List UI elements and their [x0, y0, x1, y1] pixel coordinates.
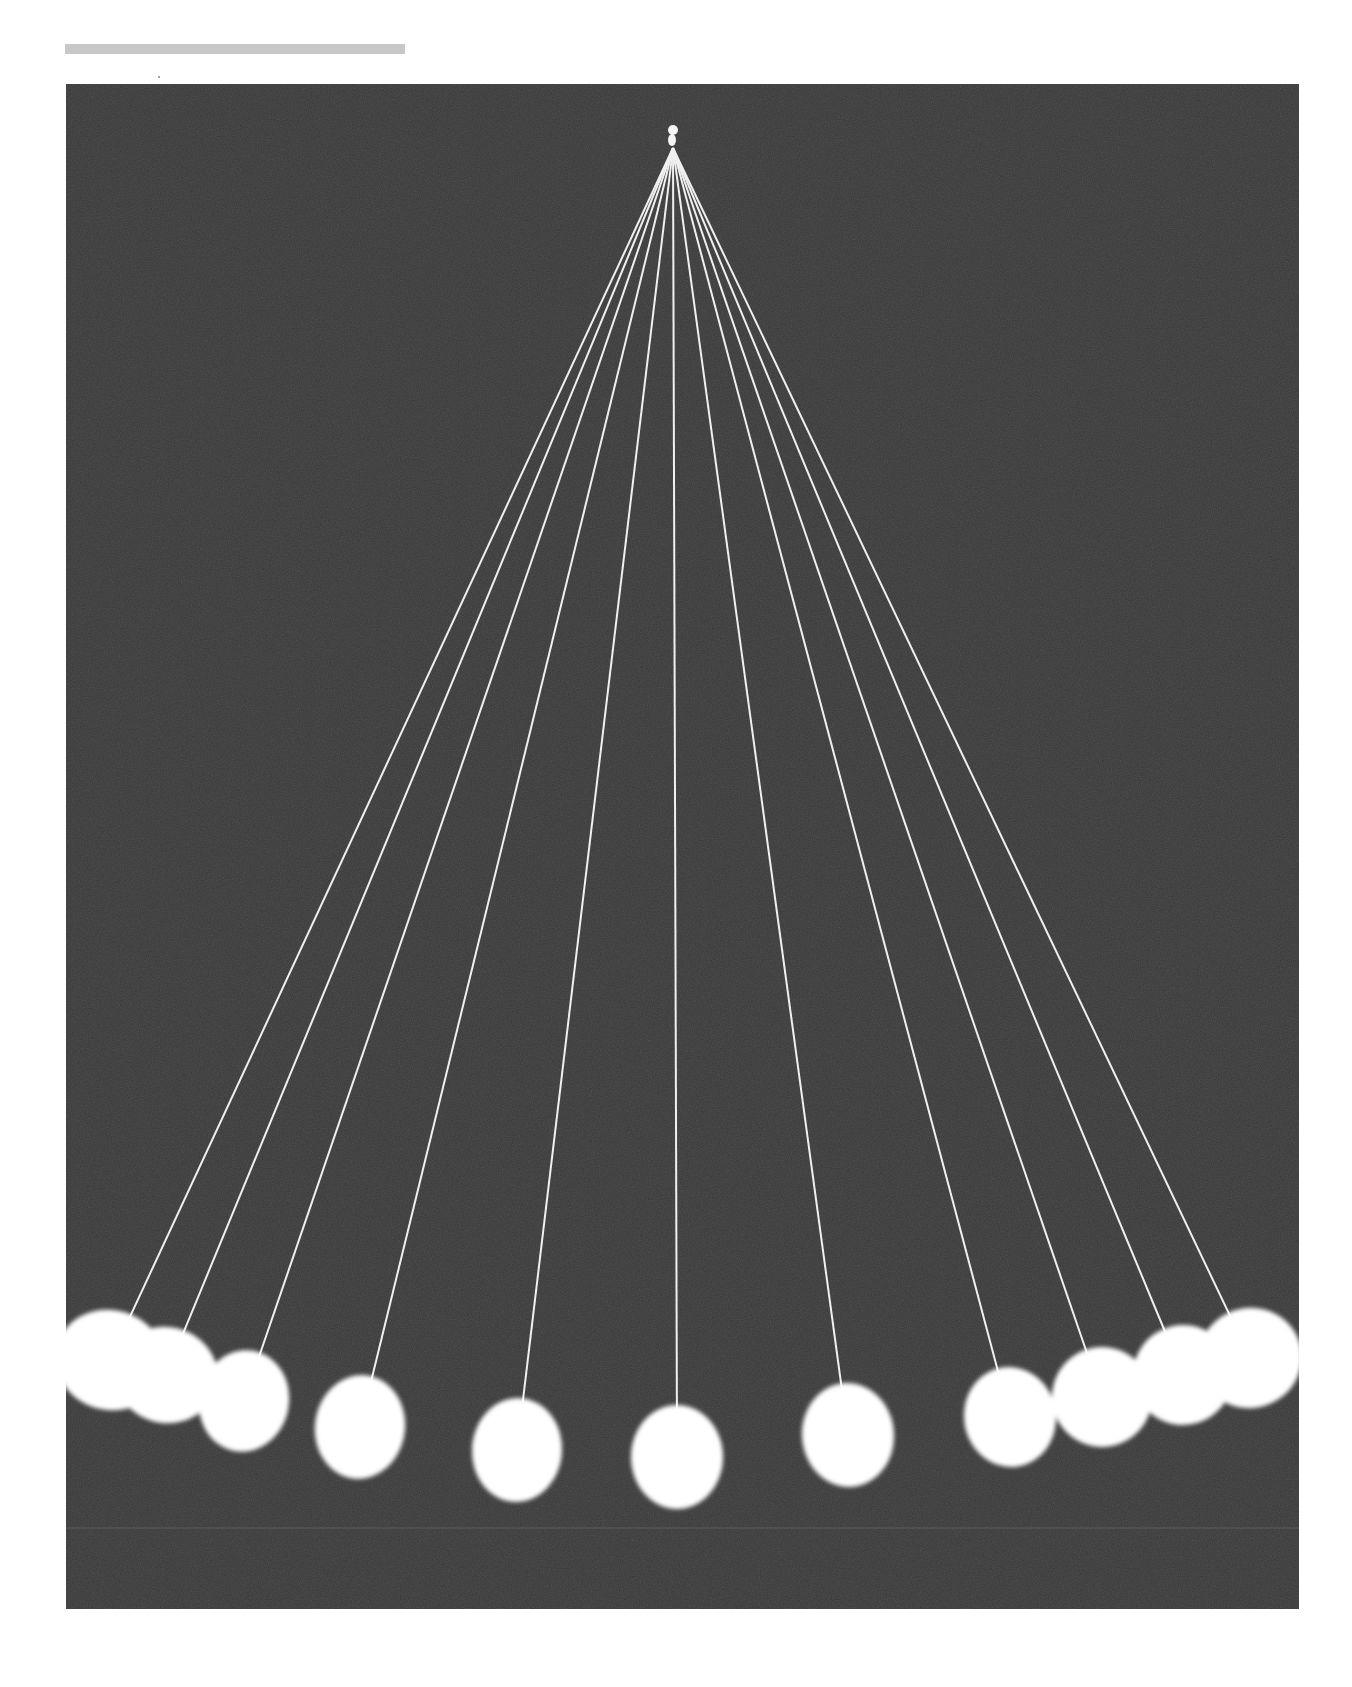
pendulum-photo — [66, 84, 1299, 1609]
header-bar — [65, 44, 405, 54]
speck — [158, 76, 160, 78]
pendulum-scene — [66, 84, 1299, 1609]
pendulum-ball — [631, 1405, 723, 1509]
